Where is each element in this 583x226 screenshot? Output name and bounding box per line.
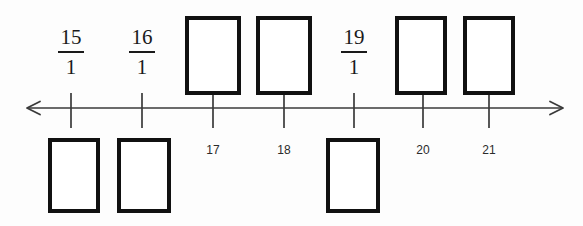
box-above-17[interactable] xyxy=(185,16,241,95)
fraction-label-19-over-1: 191 xyxy=(337,27,371,78)
number-line-axis xyxy=(27,102,563,115)
fraction-denominator: 1 xyxy=(125,53,159,78)
tick-label-18: 18 xyxy=(269,143,299,157)
fraction-label-16-over-1: 161 xyxy=(125,27,159,78)
fraction-numerator: 19 xyxy=(337,27,371,51)
tick-label-17: 17 xyxy=(198,143,228,157)
box-above-18[interactable] xyxy=(256,16,312,95)
figure-canvas: 151161191 17182021 xyxy=(0,0,583,226)
box-below-3[interactable] xyxy=(326,138,380,213)
number-line-ticks xyxy=(71,93,489,128)
box-below-2[interactable] xyxy=(117,138,171,213)
box-above-21[interactable] xyxy=(463,16,515,95)
fraction-numerator: 15 xyxy=(54,27,88,51)
box-above-20[interactable] xyxy=(395,16,447,95)
box-below-1[interactable] xyxy=(48,138,100,213)
fraction-denominator: 1 xyxy=(54,53,88,78)
fraction-numerator: 16 xyxy=(125,27,159,51)
fraction-denominator: 1 xyxy=(337,53,371,78)
fraction-label-15-over-1: 151 xyxy=(54,27,88,78)
tick-label-21: 21 xyxy=(474,143,504,157)
tick-label-20: 20 xyxy=(408,143,438,157)
